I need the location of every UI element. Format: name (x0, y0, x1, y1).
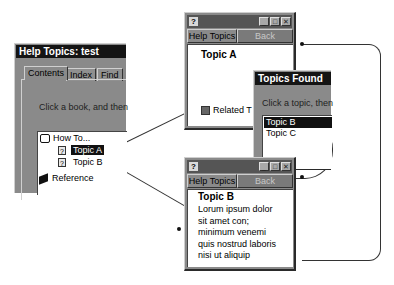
minimize-button[interactable]: _ (259, 162, 269, 171)
help-page-icon: ? (58, 146, 66, 155)
tree-item-topic-a[interactable]: ?Topic A (58, 145, 104, 156)
maximize-button[interactable]: □ (270, 17, 280, 26)
help-topics-button[interactable]: Help Topics (187, 174, 237, 188)
contents-tree[interactable]: How To... ?Topic A ?Topic B (37, 131, 127, 195)
help-icon: ? (189, 17, 198, 26)
back-button[interactable]: Back (237, 29, 293, 43)
back-button[interactable]: Back (237, 174, 293, 188)
help-topics-title: Help Topics: test (16, 45, 126, 58)
related-button-icon (201, 106, 210, 115)
topic-b-window: ? _ □ ✕ Help Topics Back Topic B Lorum i… (184, 157, 296, 271)
help-topics-window: Help Topics: test Contents Index Find Cl… (14, 43, 126, 193)
tab-contents[interactable]: Contents (24, 66, 68, 80)
closed-book-icon (39, 173, 48, 184)
topic-b-body: Lorum ipsum dolor sit amet con; minimum … (198, 204, 276, 262)
topic-b-content: Topic B Lorum ipsum dolor sit amet con; … (187, 189, 293, 267)
topics-found-title: Topics Found (255, 72, 331, 85)
topic-b-button-bar: Help Topics Back (187, 174, 292, 188)
topics-found-window: Topics Found Click a topic, then Topic B… (253, 70, 331, 170)
minimize-button[interactable]: _ (259, 17, 269, 26)
help-page-icon: ? (58, 158, 66, 167)
connector-endpoint (300, 175, 304, 179)
help-icon: ? (189, 162, 198, 171)
tree-item-reference[interactable]: Reference (39, 173, 94, 184)
instruction-text: Click a book, and then (39, 102, 128, 112)
maximize-button[interactable]: □ (270, 162, 280, 171)
topic-a-heading: Topic A (201, 49, 237, 60)
connector-endpoint (177, 227, 181, 231)
connector-endpoint (300, 42, 304, 46)
close-button[interactable]: ✕ (281, 162, 291, 171)
related-topics-button[interactable]: Related T (201, 105, 252, 115)
topics-found-instruction: Click a topic, then (262, 98, 333, 108)
topic-b-heading: Topic B (198, 191, 234, 202)
close-button[interactable]: ✕ (281, 17, 291, 26)
help-topics-button[interactable]: Help Topics (187, 29, 237, 43)
topic-a-button-bar: Help Topics Back (187, 29, 292, 43)
list-item-topic-c[interactable]: Topic C (264, 128, 296, 139)
tree-item-how-to[interactable]: How To... (40, 133, 90, 144)
list-item-topic-b[interactable]: Topic B (264, 117, 332, 128)
tree-item-topic-b[interactable]: ?Topic B (58, 157, 105, 168)
open-book-icon (40, 134, 50, 143)
